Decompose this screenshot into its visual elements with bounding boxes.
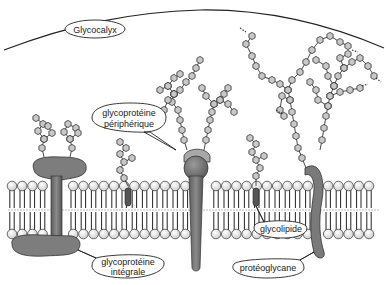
integral-glycoprotein-label-line2: intégrale bbox=[111, 267, 146, 277]
glycolipid-callout: glycolipide bbox=[254, 206, 307, 238]
glycocalyx-callout: Glycocalyx bbox=[65, 20, 125, 38]
integral-glycoprotein-callout: glycoprotéine intégrale bbox=[78, 250, 164, 278]
peripheral-glycoprotein-label-line1: glycoprotéine bbox=[102, 108, 156, 118]
glycocalyx-label: Glycocalyx bbox=[73, 25, 117, 35]
glycolipid-tail bbox=[253, 188, 259, 206]
peripheral-glycoprotein-label-line2: périphérique bbox=[104, 119, 154, 129]
integral-glycoprotein-label-line1: glycoprotéine bbox=[101, 257, 155, 267]
proteoglycan-protein bbox=[305, 166, 324, 258]
glycocalyx-boundary bbox=[4, 10, 384, 50]
glycolipid-label: glycolipide bbox=[260, 224, 302, 234]
chain-continuation-dots bbox=[240, 28, 381, 114]
proteoglycan-label: protéoglycane bbox=[240, 263, 297, 273]
glycolipid-tail-left bbox=[125, 188, 131, 206]
proteoglycan-callout: protéoglycane bbox=[233, 252, 314, 278]
cell-membrane-diagram: Glycocalyx glycoprotéine périphérique gl… bbox=[0, 0, 386, 285]
